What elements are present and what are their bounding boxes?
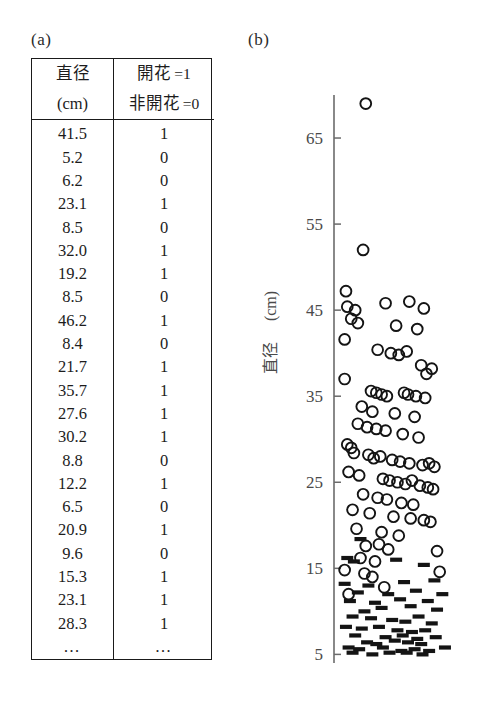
cell-flowering: 1 [114,120,215,147]
cell-diameter: 5.2 [32,146,114,169]
y-tick-label: 45 [306,301,323,320]
cell-flowering: 0 [114,216,215,239]
table-header: 直径 開花=1 (cm) 非開花=0 [32,59,214,120]
data-point-circle [388,511,399,522]
cell-flowering: 1 [114,193,215,216]
cell-diameter: 15.3 [32,566,114,589]
table-row: 5.20 [32,146,214,169]
table-row: 30.21 [32,426,214,449]
y-tick-label: 15 [306,559,323,578]
cell-flowering: 1 [114,309,215,332]
table-row-continuation: …… [32,636,214,659]
header-nonflowering-text: 非開花 [129,94,180,113]
table-row: 12.21 [32,472,214,495]
cell-diameter: 46.2 [32,309,114,332]
table-row: 8.50 [32,286,214,309]
data-point-circle [358,489,369,500]
panel-label-a: (a) [31,30,51,50]
data-point-circle [354,470,365,481]
cell-diameter: 28.3 [32,612,114,635]
strip-plot-svg: 5152535455565 直径(cm) [248,58,484,688]
data-point-circle [389,408,400,419]
data-point-circle [339,565,350,576]
header-flowering-text: 開花 [137,64,171,83]
cell-flowering: 1 [114,239,215,262]
data-point-circle [418,303,429,314]
cell-diameter: 41.5 [32,120,114,147]
table-header-row-2: (cm) 非開花=0 [32,89,214,120]
table-row: 20.91 [32,519,214,542]
cell-flowering: 1 [114,472,215,495]
data-point-circle [376,527,387,538]
cell-diameter: 20.9 [32,519,114,542]
table-row: 6.20 [32,170,214,193]
header-diameter-label: 直径 [32,59,114,89]
table-row: 9.60 [32,542,214,565]
y-tick-label: 55 [306,215,323,234]
data-point-circle [391,320,402,331]
data-points [339,98,451,654]
table-row: 8.40 [32,333,214,356]
table-header-row-1: 直径 開花=1 [32,59,214,89]
cell-flowering: 1 [114,379,215,402]
table-row: 23.11 [32,589,214,612]
data-point-circle [347,504,358,515]
data-point-circle [425,516,436,527]
data-point-circle [432,546,443,557]
y-axis-title-group: 直径(cm) [261,291,280,374]
data-point-circle [413,432,424,443]
cell-flowering: 1 [114,589,215,612]
cell-flowering: 1 [114,426,215,449]
cell-diameter: 8.8 [32,449,114,472]
table-row: 46.21 [32,309,214,332]
cell-diameter-ellipsis: … [32,636,114,659]
cell-diameter: 6.2 [32,170,114,193]
data-point-circle [351,523,362,534]
data-point-circle [339,374,350,385]
cell-flowering: 1 [114,356,215,379]
table-row: 8.80 [32,449,214,472]
cell-diameter: 27.6 [32,403,114,426]
table-row: 41.51 [32,120,214,147]
cell-diameter: 21.7 [32,356,114,379]
data-point-circle [339,334,350,345]
cell-flowering: 1 [114,519,215,542]
y-tick-label: 35 [306,387,323,406]
y-axis-title: 直径(cm) [261,291,280,374]
header-unit-label: (cm) [32,89,114,120]
data-point-circle [372,344,383,355]
data-point-circle [343,467,354,478]
series-flowering [339,98,445,599]
cell-diameter: 8.5 [32,216,114,239]
table-row: 8.50 [32,216,214,239]
data-point-circle [408,499,419,510]
y-axis-title-unit: (cm) [262,291,280,321]
table-row: 27.61 [32,403,214,426]
cell-flowering: 0 [114,333,215,356]
table-row: 28.31 [32,612,214,635]
y-axis-title-main: 直径 [261,342,280,374]
cell-diameter: 8.4 [32,333,114,356]
diameter-flowering-table: 直径 開花=1 (cm) 非開花=0 41.515.206.2023.118.5… [32,59,214,659]
data-point-circle [397,429,408,440]
cell-flowering: 1 [114,612,215,635]
data-point-circle [404,296,415,307]
cell-flowering: 0 [114,449,215,472]
header-flowering-value: =1 [174,65,191,82]
data-point-circle [380,298,391,309]
data-point-circle [370,556,381,567]
cell-flowering: 0 [114,146,215,169]
cell-diameter: 23.1 [32,193,114,216]
data-point-circle [379,582,390,593]
y-tick-label: 25 [306,473,323,492]
table-row: 19.21 [32,263,214,286]
table-row: 32.01 [32,239,214,262]
data-point-circle [341,286,352,297]
table-row: 23.11 [32,193,214,216]
data-point-circle [364,508,375,519]
cell-diameter: 8.5 [32,286,114,309]
data-point-circle [412,324,423,335]
cell-flowering-ellipsis: … [114,636,215,659]
data-point-circle [396,498,407,509]
cell-diameter: 6.5 [32,496,114,519]
